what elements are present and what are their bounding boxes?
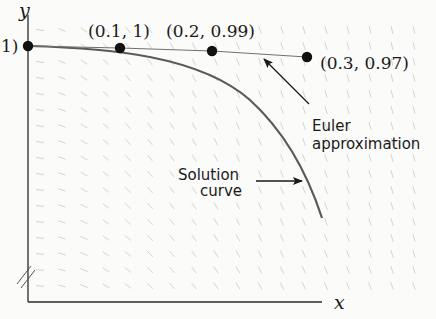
field-segment [347, 26, 349, 34]
field-segment [303, 218, 306, 225]
field-segment [347, 218, 350, 226]
field-segment [81, 60, 88, 64]
field-segment [258, 251, 262, 258]
field-segment [303, 138, 306, 146]
field-segment [81, 92, 88, 96]
field-segment [303, 186, 306, 193]
field-segment [280, 202, 283, 209]
field-segment [36, 238, 44, 239]
field-segment [147, 267, 153, 273]
field-segment [58, 29, 65, 32]
field-segment [214, 235, 218, 242]
field-segment [170, 203, 175, 209]
field-segment [347, 234, 350, 242]
field-segment [36, 61, 44, 62]
field-segment [369, 234, 372, 242]
field-segment [125, 187, 131, 192]
field-segment [391, 282, 394, 290]
field-segment [324, 282, 327, 289]
field-segment [302, 234, 305, 241]
field-segment [280, 218, 283, 225]
field-segment [81, 124, 88, 128]
field-segment [347, 106, 349, 114]
field-segment [170, 187, 175, 193]
field-segment [58, 237, 66, 239]
field-segment [391, 90, 393, 98]
field-segment [192, 283, 197, 289]
field-segment [259, 26, 262, 34]
field-segment [192, 123, 196, 130]
field-segment [413, 234, 415, 242]
field-segment [192, 251, 197, 257]
field-segment [170, 139, 174, 146]
field-segment [125, 252, 131, 257]
field-segment [147, 187, 152, 193]
field-segment [125, 284, 131, 289]
field-segment [259, 58, 262, 66]
field-segment [81, 172, 88, 176]
field-segment [103, 172, 109, 177]
field-segment [103, 204, 110, 209]
field-segment [214, 219, 218, 226]
field-segment [281, 122, 284, 129]
field-segment [214, 139, 218, 146]
field-segment [125, 59, 130, 65]
field-segment [192, 235, 197, 242]
field-segment [391, 154, 393, 162]
field-segment [81, 76, 88, 80]
field-segment [103, 188, 109, 193]
field-segment [81, 188, 88, 192]
field-segment [258, 234, 262, 241]
field-segment [125, 235, 131, 240]
field-segment [103, 91, 109, 96]
field-segment [391, 106, 393, 114]
field-segment [413, 218, 415, 226]
field-segment [413, 266, 415, 274]
field-segment [125, 219, 131, 224]
field-segment [391, 74, 393, 82]
field-segment [58, 253, 66, 255]
field-segment [103, 220, 110, 225]
field-segment [391, 42, 393, 50]
field-segment [236, 283, 240, 290]
field-segment [325, 202, 328, 210]
field-segment [103, 284, 110, 288]
field-segment [192, 155, 196, 162]
field-segment [170, 123, 174, 130]
field-segment [81, 156, 88, 160]
field-segment [58, 61, 65, 64]
field-segment [325, 26, 327, 34]
field-segment [347, 154, 349, 162]
field-segment [169, 267, 174, 273]
field-segment [170, 43, 174, 50]
field-segment [36, 94, 44, 95]
field-segment [125, 171, 131, 177]
field-segment [280, 282, 284, 289]
y-intercept-label: 1) [1, 36, 18, 56]
field-segment [413, 250, 415, 258]
field-segment [280, 186, 283, 193]
field-segment [413, 202, 415, 210]
field-segment [147, 251, 153, 257]
field-segment [259, 122, 262, 129]
field-segment [58, 77, 65, 80]
field-segment [325, 234, 328, 241]
field-segment [170, 75, 174, 82]
field-segment [303, 90, 305, 98]
field-segment [169, 251, 174, 257]
field-segment [325, 106, 327, 114]
field-segment [58, 189, 66, 191]
field-segment [369, 282, 372, 289]
field-segment [369, 90, 371, 98]
field-segment [192, 187, 196, 194]
field-segment [281, 106, 284, 114]
field-segment [236, 122, 239, 129]
field-segment [391, 202, 393, 210]
field-segment [303, 42, 305, 50]
field-segment [103, 140, 109, 145]
field-segment [259, 42, 262, 50]
field-segment [280, 250, 283, 257]
field-segment [347, 170, 349, 178]
field-segment [303, 106, 306, 114]
field-segment [36, 222, 44, 223]
